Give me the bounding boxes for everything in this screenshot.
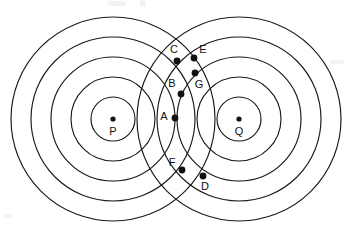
point-dot-d (200, 173, 207, 180)
point-dot-a (172, 115, 179, 122)
wavefront-diagram: PQ ABCDEFG (0, 0, 356, 238)
point-label-f: F (169, 156, 176, 168)
point-label-a: A (160, 110, 168, 122)
point-dot-b (178, 91, 185, 98)
point-dot-g (192, 70, 199, 77)
point-label-b: B (168, 77, 175, 89)
diagram-canvas: PQ ABCDEFG (0, 0, 356, 238)
point-dot-c (174, 58, 181, 65)
point-dot-e (191, 55, 198, 62)
point-label-c: C (170, 43, 178, 55)
point-label-g: G (195, 78, 204, 90)
source-dot-p (110, 116, 115, 121)
point-label-d: D (201, 180, 209, 192)
source-dot-q (236, 116, 241, 121)
point-label-e: E (199, 43, 206, 55)
source-label-q: Q (235, 125, 244, 137)
point-dot-f (179, 167, 186, 174)
source-label-p: P (109, 125, 116, 137)
